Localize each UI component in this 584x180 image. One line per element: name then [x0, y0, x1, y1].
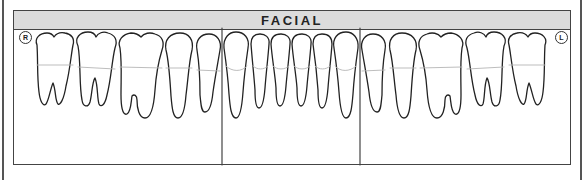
tooth-lateral-incisor-right[interactable]	[251, 34, 269, 108]
tooth-central-incisor-left[interactable]	[292, 34, 311, 106]
tooth-second-premolar-right[interactable]	[166, 33, 193, 118]
tooth-lateral-incisor-left[interactable]	[313, 34, 332, 108]
tooth-first-premolar-left[interactable]	[362, 34, 386, 112]
teeth-diagram	[0, 0, 584, 180]
tooth-third-molar-right[interactable]	[36, 33, 73, 105]
tooth-second-premolar-left[interactable]	[390, 33, 417, 118]
tooth-canine-right[interactable]	[224, 32, 248, 118]
tooth-first-molar-left[interactable]	[419, 33, 463, 118]
tooth-second-molar-right[interactable]	[77, 32, 116, 106]
tooth-first-molar-right[interactable]	[119, 33, 163, 118]
tooth-central-incisor-right[interactable]	[271, 34, 290, 106]
tooth-canine-left[interactable]	[334, 32, 358, 118]
tooth-third-molar-left[interactable]	[508, 33, 545, 105]
tooth-first-premolar-right[interactable]	[197, 34, 221, 112]
tooth-second-molar-left[interactable]	[466, 32, 505, 106]
